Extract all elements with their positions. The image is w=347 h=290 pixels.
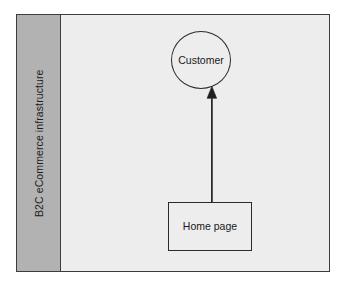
- association-arrowhead-icon: [207, 86, 217, 98]
- use-case-node-customer-label: Customer: [178, 55, 224, 66]
- diagram-content-pane: Customer Home page: [61, 15, 329, 271]
- use-case-node-customer[interactable]: Customer: [171, 31, 231, 89]
- node-home-page-label: Home page: [183, 221, 237, 232]
- partition-lane-label: B2C eCommerce infrastructure: [33, 69, 44, 217]
- diagram-canvas: B2C eCommerce infrastructure Customer Ho…: [0, 0, 347, 290]
- system-boundary-frame: B2C eCommerce infrastructure Customer Ho…: [16, 14, 330, 272]
- partition-lane-b2c-ecommerce-infrastructure[interactable]: B2C eCommerce infrastructure: [17, 15, 61, 271]
- node-home-page[interactable]: Home page: [168, 202, 252, 251]
